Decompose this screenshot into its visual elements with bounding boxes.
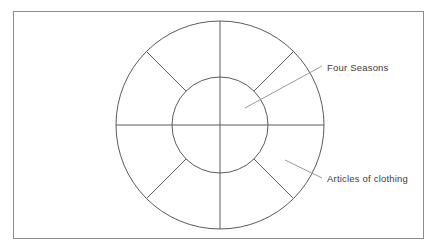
- four-seasons-label: Four Seasons: [327, 62, 389, 73]
- divider-outer-135: [146, 51, 186, 91]
- four-seasons-leader-line: [245, 66, 322, 108]
- articles-of-clothing-label: Articles of clothing: [327, 173, 408, 184]
- divider-outer-225: [146, 159, 186, 199]
- wheel-diagram: [0, 0, 440, 250]
- figure-root: Four Seasons Articles of clothing: [0, 0, 440, 250]
- divider-outer-315: [254, 159, 294, 199]
